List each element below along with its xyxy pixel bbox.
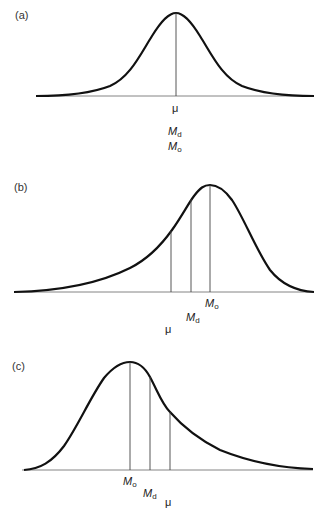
panel-a-mode-label: Mo bbox=[168, 141, 182, 155]
panel-c-mode-label: Mo bbox=[123, 476, 137, 490]
panel-a-graphic bbox=[36, 13, 314, 96]
panel-c-median-label: Md bbox=[143, 488, 157, 502]
panel-c-curve bbox=[24, 362, 313, 470]
panel-c-mean-label: μ bbox=[165, 497, 171, 508]
panel-b-graphic bbox=[14, 185, 314, 292]
panel-b-mean-label: μ bbox=[165, 324, 171, 335]
panel-a-label: (a) bbox=[15, 9, 28, 21]
panel-b-label: (b) bbox=[14, 181, 27, 193]
panel-a-median-label: Md bbox=[168, 126, 182, 140]
panel-b-curve bbox=[14, 185, 314, 292]
panel-a-mean-label: μ bbox=[172, 103, 178, 114]
panel-c-graphic bbox=[22, 362, 313, 470]
panel-b-mode-label: Mo bbox=[205, 298, 219, 312]
distribution-diagram bbox=[0, 0, 324, 510]
panel-b-median-label: Md bbox=[186, 312, 200, 326]
panel-c-label: (c) bbox=[12, 360, 25, 372]
panel-a-curve bbox=[36, 13, 314, 96]
